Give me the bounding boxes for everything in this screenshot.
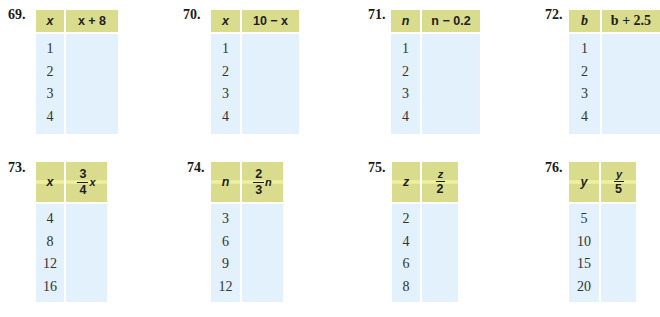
function-table: x 1 2 3 4 x + 8 [36, 10, 118, 134]
output-header: y 5 [601, 162, 636, 202]
exercise-number: 75. [368, 160, 386, 176]
input-variable: x [47, 14, 54, 28]
input-values: 1 2 3 4 [391, 34, 420, 134]
input-header: x [36, 10, 64, 32]
output-column: 10 − x [242, 10, 299, 134]
input-value: 6 [403, 253, 410, 276]
fraction-numerator: 2 [253, 168, 264, 183]
input-value: 2 [581, 61, 588, 84]
input-value: 1 [47, 38, 54, 61]
input-variable: x [47, 175, 54, 189]
output-blank-cells[interactable] [242, 34, 299, 134]
output-header: 2 3 n [242, 162, 283, 202]
input-header: y [569, 162, 599, 202]
input-value: 1 [402, 38, 409, 61]
input-value: 2 [403, 208, 410, 231]
input-header: z [392, 162, 420, 202]
fraction-numerator: z [436, 169, 446, 182]
input-variable: z [403, 175, 409, 189]
function-table: x 1 2 3 4 10 − x [211, 10, 299, 134]
output-expression: 10 − x [253, 14, 288, 28]
exercise-number: 74. [187, 160, 205, 176]
input-value: 12 [219, 276, 233, 299]
input-values: 1 2 3 4 [211, 34, 240, 134]
input-header: n [211, 162, 240, 202]
input-value: 15 [577, 253, 591, 276]
input-column: n 3 6 9 12 [211, 162, 240, 302]
fraction-denominator: 4 [77, 183, 88, 197]
output-expression: x + 8 [78, 14, 106, 28]
input-column: n 1 2 3 4 [391, 10, 420, 134]
output-blank-cells[interactable] [422, 204, 458, 302]
input-value: 12 [43, 253, 57, 276]
function-table: y 5 10 15 20 y 5 [569, 162, 636, 302]
input-variable: x [222, 14, 229, 28]
function-table: n 3 6 9 12 2 3 n [211, 162, 283, 302]
function-table: n 1 2 3 4 n − 0.2 [391, 10, 480, 134]
input-values: 5 10 15 20 [569, 204, 599, 302]
input-header: n [391, 10, 420, 32]
output-column: y 5 [601, 162, 636, 302]
input-variable: n [222, 175, 230, 189]
output-blank-cells[interactable] [602, 34, 660, 134]
output-blank-cells[interactable] [601, 204, 636, 302]
input-value: 3 [222, 208, 229, 231]
input-header: x [211, 10, 240, 32]
exercise-number: 73. [8, 160, 26, 176]
function-table: x 4 8 12 16 3 4 x [36, 162, 107, 302]
output-blank-cells[interactable] [422, 34, 480, 134]
output-blank-cells[interactable] [242, 204, 283, 302]
input-value: 5 [581, 208, 588, 231]
input-value: 9 [222, 253, 229, 276]
output-expression: n − 0.2 [431, 14, 470, 28]
input-value: 2 [47, 61, 54, 84]
fraction-denominator: 5 [613, 182, 624, 196]
input-value: 6 [222, 231, 229, 254]
input-header: b [569, 10, 600, 32]
fraction: 2 3 [253, 168, 264, 196]
fraction: 3 4 [77, 168, 88, 196]
input-column: x 4 8 12 16 [36, 162, 64, 302]
input-value: 3 [222, 83, 229, 106]
function-table: b 1 2 3 4 b + 2.5 [569, 10, 660, 134]
fraction-denominator: 2 [435, 182, 446, 196]
input-value: 4 [402, 106, 409, 129]
input-value: 4 [403, 231, 410, 254]
input-value: 2 [222, 61, 229, 84]
input-header: x [36, 162, 64, 202]
output-header: x + 8 [66, 10, 118, 32]
output-column: 3 4 x [66, 162, 107, 302]
fraction-numerator: y [614, 169, 624, 182]
output-header: 3 4 x [66, 162, 107, 202]
input-column: y 5 10 15 20 [569, 162, 599, 302]
output-expression: z 2 [435, 169, 446, 196]
exercise-number: 72. [545, 7, 563, 23]
output-header: b + 2.5 [602, 10, 660, 32]
output-expression: 2 3 n [253, 168, 272, 196]
output-expression: y 5 [613, 169, 624, 196]
input-value: 4 [581, 106, 588, 129]
function-table: z 2 4 6 8 z 2 [392, 162, 458, 302]
output-header: n − 0.2 [422, 10, 480, 32]
input-value: 16 [43, 276, 57, 299]
fraction-variable: n [265, 176, 272, 188]
output-expression: b + 2.5 [611, 13, 651, 29]
input-column: x 1 2 3 4 [36, 10, 64, 134]
output-blank-cells[interactable] [66, 34, 118, 134]
fraction-variable: x [89, 176, 95, 188]
output-column: n − 0.2 [422, 10, 480, 134]
input-value: 1 [222, 38, 229, 61]
input-value: 1 [581, 38, 588, 61]
input-value: 3 [581, 83, 588, 106]
output-header: z 2 [422, 162, 458, 202]
output-blank-cells[interactable] [66, 204, 107, 302]
input-values: 2 4 6 8 [392, 204, 420, 302]
output-column: b + 2.5 [602, 10, 660, 134]
input-value: 8 [47, 231, 54, 254]
exercise-number: 71. [368, 7, 386, 23]
input-variable: y [581, 175, 588, 189]
fraction: z 2 [435, 169, 446, 196]
input-value: 3 [47, 83, 54, 106]
input-value: 10 [577, 231, 591, 254]
input-column: x 1 2 3 4 [211, 10, 240, 134]
